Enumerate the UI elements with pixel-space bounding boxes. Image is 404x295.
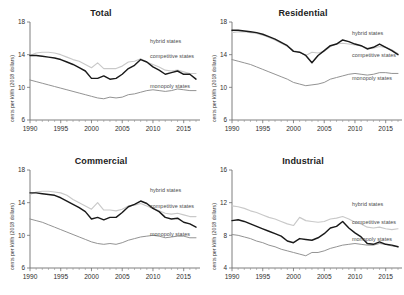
x-tick-label: 1990 [225, 273, 240, 280]
x-tick-label: 2005 [115, 125, 130, 132]
chart-panel-industrial: Industrialcents per kWh (2018 dollars)48… [202, 148, 404, 295]
plot-area: 481216199019952000200520102015hybrid sta… [202, 148, 404, 295]
series-label-hybrid: hybrid states [352, 201, 383, 207]
y-tick-label: 4 [223, 264, 227, 271]
series-label-monopoly: monopoly states [150, 83, 190, 89]
plot-area: 6101418199019952000200520102015hybrid st… [0, 148, 202, 295]
x-tick-label: 2010 [348, 273, 363, 280]
series-label-hybrid: hybrid states [150, 187, 181, 193]
x-tick-label: 2005 [317, 125, 332, 132]
x-tick-label: 1995 [255, 273, 270, 280]
x-tick-label: 2010 [348, 125, 363, 132]
series-label-competitive: competitive states [352, 219, 396, 225]
x-tick-label: 1995 [255, 125, 270, 132]
x-tick-label: 2005 [317, 273, 332, 280]
y-tick-label: 10 [220, 84, 228, 91]
chart-panel-commercial: Commercialcents per kWh (2018 dollars)61… [0, 148, 202, 295]
x-tick-label: 1990 [23, 125, 38, 132]
plot-area: 6101418199019952000200520102015hybrid st… [202, 0, 404, 147]
y-tick-label: 18 [220, 18, 228, 25]
x-tick-label: 1990 [23, 273, 38, 280]
chart-panel-residential: Residentialcents per kWh (2018 dollars)6… [202, 0, 404, 147]
x-tick-label: 2010 [146, 125, 161, 132]
series-label-monopoly: monopoly states [352, 75, 392, 81]
y-tick-label: 18 [18, 18, 26, 25]
series-label-hybrid: hybrid states [352, 30, 383, 36]
y-tick-label: 8 [223, 232, 227, 239]
x-tick-label: 2000 [286, 125, 301, 132]
chart-figure: Totalcents per kWh (2018 dollars)6101418… [0, 0, 404, 295]
y-tick-label: 14 [18, 199, 26, 206]
x-tick-label: 2000 [84, 273, 99, 280]
y-tick-label: 14 [220, 51, 228, 58]
x-tick-label: 2015 [176, 273, 191, 280]
plot-area: 6101418199019952000200520102015hybrid st… [0, 0, 202, 147]
y-tick-label: 10 [18, 84, 26, 91]
x-tick-label: 2000 [286, 273, 301, 280]
y-tick-label: 10 [18, 232, 26, 239]
x-tick-label: 2005 [115, 273, 130, 280]
series-label-monopoly: monopoly states [352, 236, 392, 242]
series-line-competitive [30, 55, 196, 79]
series-line-monopoly [232, 60, 398, 86]
chart-panel-total: Totalcents per kWh (2018 dollars)6101418… [0, 0, 202, 147]
x-tick-label: 2015 [378, 273, 393, 280]
y-tick-label: 6 [223, 116, 227, 123]
y-tick-label: 16 [220, 166, 228, 173]
series-label-monopoly: monopoly states [150, 231, 190, 237]
series-label-competitive: competitive states [352, 52, 396, 58]
x-tick-label: 2015 [176, 125, 191, 132]
series-label-competitive: competitive states [150, 53, 194, 59]
y-tick-label: 14 [18, 51, 26, 58]
series-label-hybrid: hybrid states [150, 38, 181, 44]
x-tick-label: 1990 [225, 125, 240, 132]
y-tick-label: 6 [21, 264, 25, 271]
y-tick-label: 12 [220, 199, 228, 206]
x-tick-label: 2015 [378, 125, 393, 132]
y-tick-label: 18 [18, 166, 26, 173]
x-tick-label: 1995 [53, 273, 68, 280]
x-tick-label: 1995 [53, 125, 68, 132]
series-label-competitive: competitive states [150, 203, 194, 209]
y-tick-label: 6 [21, 116, 25, 123]
x-tick-label: 2010 [146, 273, 161, 280]
x-tick-label: 2000 [84, 125, 99, 132]
